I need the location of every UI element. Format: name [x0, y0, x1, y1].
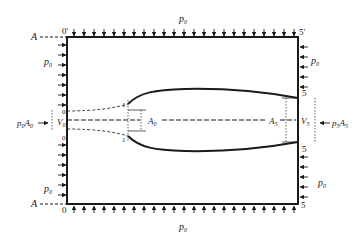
left-upper-ambient-pressure-label: p0: [43, 56, 52, 68]
right-upper-ambient-pressure-label: p0: [310, 55, 319, 67]
station-5-upper-label: 5: [302, 88, 307, 98]
jet-upper-boundary: [128, 89, 298, 104]
corner-5-label: 5: [301, 200, 306, 210]
jet-lower-boundary: [128, 136, 298, 151]
bottom-pressure-arrows: [74, 206, 294, 213]
inlet-area-label: A0: [147, 116, 157, 127]
control-volume-diagram: p0 p0 p0 p0 p0 p0 A A 0' 5' 0 5 p0A0 V0 …: [0, 0, 361, 245]
corner-0-prime-label: 0': [62, 26, 69, 36]
exit-velocity-label: V5: [301, 116, 310, 127]
corner-0-label: 0: [62, 205, 67, 215]
top-pressure-arrows: [74, 29, 294, 36]
section-A-top-label: A: [30, 31, 38, 42]
top-ambient-pressure-label: p0: [178, 13, 187, 25]
station-1-upper-label: 1: [122, 101, 126, 109]
bottom-ambient-pressure-label: p0: [178, 221, 187, 233]
left-lower-ambient-pressure-label: p0: [43, 183, 52, 195]
exit-area-label: A5: [268, 116, 278, 127]
exit-force-label: p5A5: [331, 118, 348, 129]
right-lower-ambient-pressure-label: p0: [317, 177, 326, 189]
station-1-lower-label: 1: [122, 136, 126, 144]
section-A-bottom-label: A: [30, 198, 38, 209]
inlet-force-label: p0A0: [16, 118, 33, 129]
station-5-lower-label: 5: [302, 144, 307, 154]
inlet-lower-0-label: 0: [62, 134, 66, 142]
inlet-velocity-label: V0: [57, 117, 66, 128]
streamtube-upper: [67, 104, 128, 111]
corner-5-prime-label: 5': [299, 27, 306, 37]
inlet-upper-0-label: 0: [62, 108, 66, 116]
streamtube-lower: [67, 129, 128, 136]
